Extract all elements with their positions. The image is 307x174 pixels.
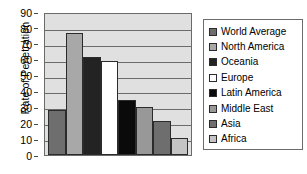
legend-item-latin-america[interactable]: Latin America bbox=[209, 86, 299, 101]
y-axis-tick-label: 40 bbox=[20, 87, 32, 98]
y-axis-tick-label: 50 bbox=[20, 71, 32, 82]
legend-swatch-icon bbox=[209, 120, 217, 128]
legend-item-middle-east[interactable]: Middle East bbox=[209, 101, 299, 116]
legend-item-label: Africa bbox=[221, 134, 247, 144]
legend: World AverageNorth AmericaOceaniaEuropeL… bbox=[203, 19, 303, 150]
legend-item-label: Asia bbox=[221, 119, 240, 129]
legend-item-africa[interactable]: Africa bbox=[209, 132, 299, 147]
y-axis-tick-mark bbox=[34, 92, 38, 93]
y-axis-tick-mark bbox=[34, 156, 38, 157]
legend-item-label: North America bbox=[221, 42, 284, 52]
bar-chart: Rate of Penetration 9080706050403020100 … bbox=[0, 0, 307, 174]
y-axis-tick-label: 20 bbox=[20, 118, 32, 129]
y-axis-tick-mark bbox=[34, 124, 38, 125]
legend-swatch-icon bbox=[209, 28, 217, 36]
y-axis-tick-label: 70 bbox=[20, 39, 32, 50]
y-axis-tick-label: 30 bbox=[20, 103, 32, 114]
y-axis-tick-label: 90 bbox=[20, 7, 32, 18]
bar-slot bbox=[136, 14, 154, 155]
legend-swatch-icon bbox=[209, 74, 217, 82]
bar-africa[interactable] bbox=[171, 138, 189, 155]
bar-slot bbox=[153, 14, 171, 155]
legend-swatch-icon bbox=[209, 105, 217, 113]
legend-swatch-icon bbox=[209, 135, 217, 143]
y-axis-tick-mark bbox=[34, 108, 38, 109]
y-axis-tick-labels: 9080706050403020100 bbox=[14, 13, 38, 156]
y-axis-tick-mark bbox=[34, 44, 38, 45]
y-axis-tick-mark bbox=[34, 13, 38, 14]
legend-item-europe[interactable]: Europe bbox=[209, 70, 299, 85]
legend-item-north-america[interactable]: North America bbox=[209, 39, 299, 54]
legend-item-world-average[interactable]: World Average bbox=[209, 24, 299, 39]
y-axis-tick-mark bbox=[34, 28, 38, 29]
bar-europe[interactable] bbox=[101, 61, 119, 155]
legend-swatch-icon bbox=[209, 58, 217, 66]
bar-slot bbox=[66, 14, 84, 155]
y-axis-tick-mark bbox=[34, 60, 38, 61]
bars-container bbox=[45, 14, 191, 155]
bar-asia[interactable] bbox=[153, 121, 171, 155]
y-axis-tick-mark bbox=[34, 76, 38, 77]
legend-item-oceania[interactable]: Oceania bbox=[209, 55, 299, 70]
bar-world-average[interactable] bbox=[48, 110, 66, 155]
bar-slot bbox=[83, 14, 101, 155]
legend-item-asia[interactable]: Asia bbox=[209, 116, 299, 131]
y-axis-tick-label: 60 bbox=[20, 55, 32, 66]
legend-item-label: World Average bbox=[221, 27, 286, 37]
y-axis-tick-label: 10 bbox=[20, 134, 32, 145]
y-axis-tick-label: 0 bbox=[26, 150, 32, 161]
bar-slot bbox=[118, 14, 136, 155]
legend-item-label: Latin America bbox=[221, 88, 282, 98]
legend-swatch-icon bbox=[209, 43, 217, 51]
bar-slot bbox=[171, 14, 189, 155]
y-axis-tick-mark bbox=[34, 140, 38, 141]
plot-area bbox=[44, 13, 192, 156]
bar-slot bbox=[101, 14, 119, 155]
legend-item-label: Europe bbox=[221, 73, 253, 83]
legend-item-label: Oceania bbox=[221, 57, 258, 67]
bar-slot bbox=[48, 14, 66, 155]
legend-item-label: Middle East bbox=[221, 104, 273, 114]
bar-latin-america[interactable] bbox=[118, 100, 136, 155]
bar-middle-east[interactable] bbox=[136, 107, 154, 155]
y-axis-tick-label: 80 bbox=[20, 23, 32, 34]
bar-north-america[interactable] bbox=[66, 33, 84, 155]
legend-swatch-icon bbox=[209, 89, 217, 97]
bar-oceania[interactable] bbox=[83, 57, 101, 155]
